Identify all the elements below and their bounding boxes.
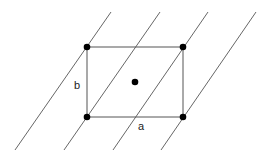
lattice-line-1 xyxy=(15,12,111,150)
label-a: a xyxy=(138,120,145,132)
axis-labels: b a xyxy=(74,79,145,132)
lattice-point-top-left xyxy=(84,44,91,51)
lattice-line-4 xyxy=(161,12,256,150)
lattice-points xyxy=(84,44,187,121)
lattice-point-center xyxy=(132,79,139,86)
lattice-point-top-right xyxy=(180,44,187,51)
lattice-line-3 xyxy=(113,12,208,150)
label-b: b xyxy=(74,79,80,91)
lattice-point-bottom-left xyxy=(84,114,91,121)
lattice-diagram: b a xyxy=(0,0,266,159)
lattice-point-bottom-right xyxy=(180,114,187,121)
